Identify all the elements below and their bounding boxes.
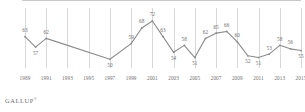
registered-trademark-icon: ®	[34, 97, 37, 101]
x-axis-tick-label: 2011	[253, 76, 264, 81]
data-point-label: 55	[298, 54, 303, 59]
data-point-label: 51	[256, 61, 261, 66]
x-axis-tick-label: 1995	[83, 76, 94, 81]
data-point-label: 63	[160, 28, 165, 33]
data-point-label: 59	[128, 35, 133, 40]
data-point-marker	[183, 44, 185, 46]
x-axis-tick-label: 1989	[20, 76, 31, 81]
data-point-label: 65	[213, 25, 218, 30]
data-point-marker	[109, 58, 111, 60]
gallup-logo-text: GALLUP	[5, 97, 34, 104]
data-point-label: 62	[203, 30, 208, 35]
data-point-marker	[194, 57, 196, 59]
gallup-logo: GALLUP®	[5, 97, 37, 104]
data-point-label: 50	[107, 63, 112, 68]
data-point-marker	[151, 20, 153, 22]
data-point-label: 52	[245, 59, 250, 64]
x-axis-tick-label: 1997	[105, 76, 116, 81]
data-point-label: 53	[266, 46, 271, 51]
data-point-label: 72	[150, 12, 155, 17]
data-point-marker	[162, 36, 164, 38]
x-axis-tick-label: 2001	[147, 76, 158, 81]
data-point-marker	[141, 27, 143, 29]
x-axis-tick-label: 2015	[296, 76, 305, 81]
data-point-marker	[205, 37, 207, 39]
data-point-marker	[130, 43, 132, 45]
data-point-label: 62	[44, 30, 49, 35]
data-point-marker	[173, 51, 175, 53]
gallup-line-chart: 6357625059687263545851626566605251535856…	[0, 0, 305, 112]
data-point-label: 57	[33, 51, 38, 56]
data-point-label: 58	[277, 37, 282, 42]
data-point-label: 60	[235, 33, 240, 38]
data-point-marker	[300, 50, 302, 52]
data-point-label: 56	[288, 40, 293, 45]
data-point-marker	[258, 57, 260, 59]
x-axis-tick-label: 2007	[211, 76, 222, 81]
data-point-marker	[24, 36, 26, 38]
x-axis-tick-label: 1993	[62, 76, 73, 81]
plot-area: 6357625059687263545851626566605251535856…	[0, 0, 305, 72]
x-axis-tick-label: 2005	[189, 76, 200, 81]
x-axis-tick-label: 2013	[274, 76, 285, 81]
data-point-marker	[279, 44, 281, 46]
data-point-marker	[35, 46, 37, 48]
x-axis-tick-label: 1991	[41, 76, 52, 81]
data-point-label: 58	[182, 37, 187, 42]
data-point-label: 63	[22, 28, 27, 33]
data-point-label: 68	[139, 19, 144, 24]
data-point-marker	[45, 37, 47, 39]
data-point-marker	[247, 55, 249, 57]
data-point-label: 66	[224, 23, 229, 28]
x-axis-tick-label: 2009	[232, 76, 243, 81]
data-point-marker	[268, 53, 270, 55]
x-axis-tick-label: 1999	[126, 76, 137, 81]
x-axis-tick-label: 2003	[168, 76, 179, 81]
data-point-label: 54	[171, 56, 176, 61]
data-point-marker	[226, 31, 228, 33]
x-axis-tick-labels: 1989199119931995199719992001200320052007…	[0, 76, 305, 90]
data-point-marker	[215, 32, 217, 34]
data-point-marker	[236, 41, 238, 43]
data-point-marker	[289, 48, 291, 50]
data-point-label: 51	[192, 61, 197, 66]
